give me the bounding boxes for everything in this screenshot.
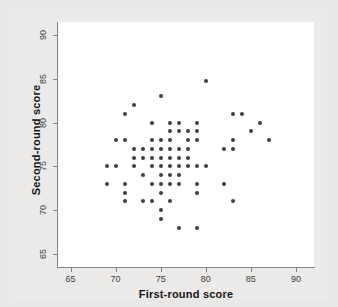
x-tick-90	[296, 268, 297, 272]
x-axis-line	[57, 267, 315, 268]
scatter-plot-figure: 657075808590 657075808590 First-round sc…	[0, 0, 338, 307]
data-point	[231, 147, 235, 151]
y-tick-90	[53, 35, 57, 36]
data-point	[186, 138, 190, 142]
data-point	[168, 121, 172, 125]
data-point	[123, 138, 127, 142]
data-point	[168, 173, 172, 177]
data-point	[150, 138, 154, 142]
x-tick-label-85: 85	[236, 274, 266, 284]
data-point	[168, 138, 172, 142]
data-point	[195, 191, 199, 195]
data-point	[159, 208, 163, 212]
data-point	[114, 138, 118, 142]
data-point	[267, 138, 271, 142]
x-tick-85	[251, 268, 252, 272]
data-point	[159, 182, 163, 186]
y-tick-75	[53, 166, 57, 167]
x-tick-75	[161, 268, 162, 272]
y-tick-70	[53, 210, 57, 211]
data-point	[123, 112, 127, 116]
x-tick-label-80: 80	[191, 274, 221, 284]
data-point	[150, 182, 154, 186]
data-point	[195, 138, 199, 142]
x-tick-70	[116, 268, 117, 272]
data-point	[231, 112, 235, 116]
y-axis-line	[57, 22, 58, 268]
data-point	[132, 156, 136, 160]
data-point	[186, 156, 190, 160]
data-point	[159, 138, 163, 142]
data-point	[141, 173, 145, 177]
data-point	[159, 217, 163, 221]
data-point	[168, 182, 172, 186]
x-tick-label-65: 65	[56, 274, 86, 284]
data-point	[168, 147, 172, 151]
data-point	[150, 156, 154, 160]
data-point	[132, 147, 136, 151]
x-tick-65	[71, 268, 72, 272]
x-tick-label-70: 70	[101, 274, 131, 284]
data-point	[150, 121, 154, 125]
data-point	[195, 226, 199, 230]
x-tick-80	[206, 268, 207, 272]
y-tick-label-65: 65	[38, 245, 48, 263]
data-point	[177, 226, 181, 230]
data-point	[168, 156, 172, 160]
figure-inner-panel: 657075808590 657075808590 First-round sc…	[9, 8, 329, 299]
data-point	[204, 79, 208, 83]
data-point	[177, 156, 181, 160]
y-tick-65	[53, 254, 57, 255]
data-point	[222, 182, 226, 186]
x-tick-label-90: 90	[281, 274, 311, 284]
data-point	[240, 112, 244, 116]
data-point	[177, 121, 181, 125]
data-point	[231, 138, 235, 142]
y-tick-80	[53, 123, 57, 124]
data-point	[177, 173, 181, 177]
x-tick-label-75: 75	[146, 274, 176, 284]
data-point	[159, 173, 163, 177]
data-point	[222, 147, 226, 151]
data-point	[186, 147, 190, 151]
data-point	[195, 121, 199, 125]
data-point	[132, 103, 136, 107]
data-point	[159, 147, 163, 151]
data-point	[123, 182, 127, 186]
y-tick-85	[53, 79, 57, 80]
data-point	[195, 182, 199, 186]
data-point	[159, 156, 163, 160]
data-point	[258, 121, 262, 125]
data-point	[141, 147, 145, 151]
data-point	[177, 182, 181, 186]
data-point	[141, 156, 145, 160]
data-point	[177, 147, 181, 151]
plot-canvas	[57, 22, 314, 267]
data-point	[150, 147, 154, 151]
y-axis-title: Second-round score	[30, 60, 42, 220]
x-axis-title: First-round score	[57, 288, 315, 300]
data-point	[159, 191, 163, 195]
y-tick-label-90: 90	[38, 26, 48, 44]
data-point	[123, 191, 127, 195]
data-point	[105, 182, 109, 186]
